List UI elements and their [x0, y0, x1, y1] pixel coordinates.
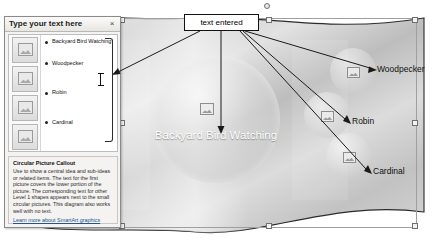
bullet-icon — [45, 62, 48, 65]
screenshot-root: Backyard Bird Watching Woodpecker Robin … — [0, 0, 432, 241]
picture-thumbnail[interactable] — [12, 37, 38, 63]
bullet-icon — [45, 41, 48, 44]
center-picture-circle[interactable] — [152, 55, 280, 183]
picture-icon — [18, 72, 33, 85]
text-pane-description: Circular Picture Callout Use to show a c… — [8, 156, 118, 224]
center-picture-placeholder-icon[interactable] — [200, 103, 214, 115]
description-body: Use to show a central idea and sub-ideas… — [13, 168, 113, 214]
diagram-label-woodpecker: Woodpecker — [377, 64, 425, 74]
bullet-icon — [45, 121, 48, 124]
text-cursor-icon — [100, 73, 101, 86]
picture-icon — [18, 101, 33, 114]
picture-thumbnail[interactable] — [12, 124, 38, 150]
thumbnail-column[interactable] — [9, 35, 41, 151]
description-heading: Circular Picture Callout — [13, 160, 113, 166]
picture-placeholder-icon-woodpecker[interactable] — [347, 67, 360, 78]
bullet-column[interactable]: Backyard Bird Watching Woodpecker Robin … — [41, 35, 117, 151]
text-pane-body[interactable]: Backyard Bird Watching Woodpecker Robin … — [8, 34, 118, 152]
list-item[interactable]: Backyard Bird Watching — [45, 38, 114, 46]
learn-more-link[interactable]: Learn more about SmartArt graphics — [13, 217, 113, 223]
picture-thumbnail[interactable] — [12, 95, 38, 121]
list-item[interactable]: Cardinal — [45, 119, 114, 127]
center-circle-label: Backyard Bird Watching — [152, 128, 280, 143]
text-pane[interactable]: Type your text here × Backyard Bird Watc… — [4, 16, 121, 228]
close-icon[interactable]: × — [107, 19, 117, 29]
picture-icon — [18, 130, 33, 143]
bullet-icon — [45, 92, 48, 95]
level-bracket — [105, 38, 113, 142]
text-pane-title: Type your text here — [5, 17, 120, 32]
diagram-label-cardinal: Cardinal — [373, 166, 405, 176]
picture-placeholder-icon-cardinal[interactable] — [343, 152, 356, 163]
list-item[interactable]: Woodpecker — [45, 60, 114, 68]
picture-icon — [18, 43, 33, 56]
picture-placeholder-icon-robin[interactable] — [321, 111, 334, 122]
picture-thumbnail[interactable] — [12, 66, 38, 92]
annotation-callout-text-entered: text entered — [184, 14, 259, 31]
diagram-label-robin: Robin — [352, 116, 374, 126]
list-item[interactable]: Robin — [45, 89, 114, 97]
